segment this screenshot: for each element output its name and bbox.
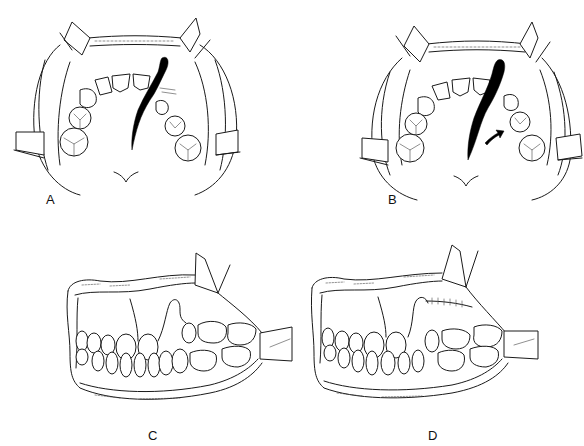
retractor-top-right bbox=[520, 22, 538, 58]
panel-label-a: A bbox=[46, 193, 55, 206]
panel-d: D bbox=[292, 223, 584, 446]
retractor-right bbox=[216, 130, 238, 155]
retractor-top-right bbox=[180, 18, 200, 52]
panel-c: C bbox=[0, 223, 292, 446]
retractor-right bbox=[504, 331, 538, 359]
lateral-dentition-illustration-c bbox=[0, 223, 292, 446]
occlusal-arch-illustration-a bbox=[0, 0, 292, 223]
panel-label-b: B bbox=[388, 193, 397, 206]
panel-label-d: D bbox=[428, 429, 437, 442]
retractor-top-left bbox=[64, 22, 90, 55]
occlusal-arch-illustration-b bbox=[292, 0, 584, 223]
panel-b: B bbox=[292, 0, 584, 223]
retractor-right bbox=[260, 327, 292, 361]
suture-line bbox=[426, 301, 472, 307]
retractor-left bbox=[362, 138, 388, 162]
retractor-top-left bbox=[404, 26, 429, 62]
widened-alveolar-cleft bbox=[468, 60, 505, 160]
panel-a: A bbox=[0, 0, 292, 223]
curved-arrow-icon bbox=[485, 130, 504, 145]
retractor-top bbox=[195, 253, 218, 293]
retractor-right bbox=[556, 134, 582, 160]
retractor-top bbox=[442, 245, 466, 287]
panel-label-c: C bbox=[148, 429, 157, 442]
lateral-dentition-illustration-d bbox=[292, 223, 584, 446]
